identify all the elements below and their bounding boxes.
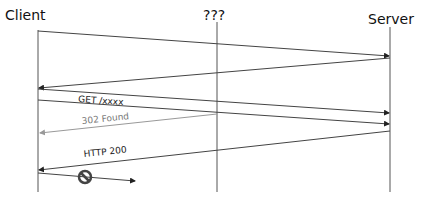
message-1	[38, 31, 389, 56]
label-http200: HTTP 200	[83, 145, 127, 159]
label-get: GET /xxxx	[78, 94, 125, 107]
lifelines	[38, 22, 390, 192]
sequence-diagram: GET /xxxx 302 Found HTTP 200	[0, 0, 433, 208]
message-2	[39, 58, 390, 88]
